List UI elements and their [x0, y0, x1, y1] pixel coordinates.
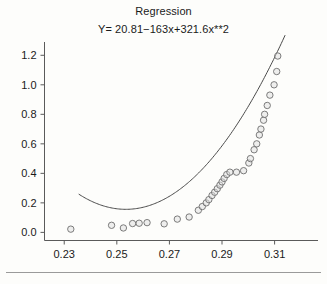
scatter-points	[68, 53, 281, 233]
data-point-marker	[264, 102, 270, 108]
footer-divider	[6, 272, 321, 273]
data-point-marker	[240, 167, 246, 173]
data-point-marker	[267, 92, 273, 98]
x-tick-label: 0.31	[264, 248, 285, 260]
data-point-marker	[136, 220, 142, 226]
x-tick-label: 0.25	[106, 248, 127, 260]
y-tick-label: 1.2	[21, 49, 36, 61]
x-tick-label: 0.23	[54, 248, 75, 260]
y-tick-label: 0.6	[21, 138, 36, 150]
data-point-marker	[254, 141, 260, 147]
data-point-marker	[227, 169, 233, 175]
data-point-marker	[233, 169, 239, 175]
x-axis-ticks: 0.230.250.270.290.31	[54, 241, 286, 260]
data-point-marker	[108, 222, 114, 228]
regression-fit-curve	[79, 35, 285, 209]
data-point-marker	[129, 220, 135, 226]
data-point-marker	[274, 68, 280, 74]
data-point-marker	[144, 219, 150, 225]
y-tick-label: 0.2	[21, 197, 36, 209]
y-tick-label: 0.0	[21, 226, 36, 238]
data-point-marker	[261, 111, 267, 117]
plot-area: 0.00.20.40.60.81.01.2 0.230.250.270.290.…	[0, 0, 327, 284]
data-point-marker	[247, 155, 253, 161]
x-tick-label: 0.29	[211, 248, 232, 260]
y-axis-ticks: 0.00.20.40.60.81.01.2	[21, 49, 44, 238]
x-tick-label: 0.27	[159, 248, 180, 260]
data-point-marker	[120, 225, 126, 231]
data-point-marker	[275, 53, 281, 59]
data-point-marker	[186, 214, 192, 220]
data-point-marker	[251, 147, 257, 153]
data-point-marker	[260, 117, 266, 123]
data-point-marker	[68, 226, 74, 232]
y-tick-label: 1.0	[21, 79, 36, 91]
data-point-marker	[258, 126, 264, 132]
data-point-marker	[256, 132, 262, 138]
y-tick-label: 0.4	[21, 167, 36, 179]
y-tick-label: 0.8	[21, 108, 36, 120]
data-point-marker	[174, 216, 180, 222]
data-point-marker	[271, 82, 277, 88]
data-point-marker	[161, 221, 167, 227]
regression-chart-figure: Regression Y= 20.81−163x+321.6x**2 0.00.…	[0, 0, 327, 284]
